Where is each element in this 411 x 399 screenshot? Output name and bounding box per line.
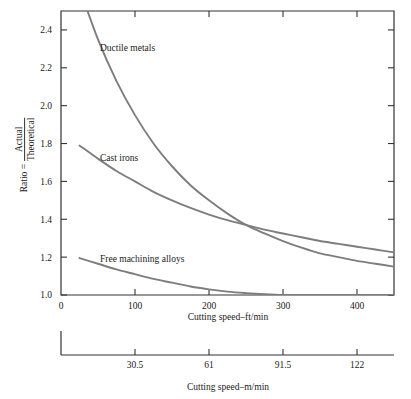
y-tick-label: 1.8 (40, 139, 52, 149)
x-tick-label: 100 (128, 301, 143, 311)
curve-label-ductile-metals: Ductile metals (100, 43, 155, 53)
x-tick-label-secondary: 91.5 (275, 360, 292, 370)
y-tick-label: 2.2 (40, 63, 52, 73)
x-axis-secondary-title: Cutting speed–m/min (187, 382, 269, 392)
y-tick-label: 2.4 (40, 25, 52, 35)
chart-figure: 1.01.21.41.61.82.02.22.4 0100200300400 3… (0, 0, 411, 399)
x-tick-label: 200 (202, 301, 217, 311)
curve-label-free-machining-alloys: Free machining alloys (100, 254, 185, 264)
x-tick-label: 300 (276, 301, 291, 311)
y-axis-title: Ratio = Actual Theoretical (14, 117, 36, 192)
x-tick-label: 0 (59, 301, 64, 311)
y-axis-title-numerator: Actual (14, 126, 24, 152)
y-axis-title-denominator: Theoretical (26, 117, 36, 161)
y-axis-ticks: 1.01.21.41.61.82.02.22.4 (40, 25, 394, 300)
y-tick-label: 1.4 (40, 215, 52, 225)
x-axis-primary-title: Cutting speed–ft/min (188, 312, 269, 322)
y-tick-label: 2.0 (40, 101, 52, 111)
x-tick-label-secondary: 122 (350, 360, 365, 370)
curve-ductile-metals (80, 0, 395, 267)
curve-label-cast-irons: Cast irons (100, 153, 139, 163)
y-axis-title-prefix: Ratio = (19, 164, 29, 192)
x-tick-label: 400 (350, 301, 365, 311)
y-tick-label: 1.2 (40, 253, 52, 263)
x-axis-secondary: 30.56191.5122 (61, 331, 394, 370)
x-tick-label-secondary: 30.5 (127, 360, 144, 370)
x-tick-label-secondary: 61 (204, 360, 214, 370)
y-tick-label: 1.6 (40, 177, 52, 187)
y-tick-label: 1.0 (40, 290, 52, 300)
